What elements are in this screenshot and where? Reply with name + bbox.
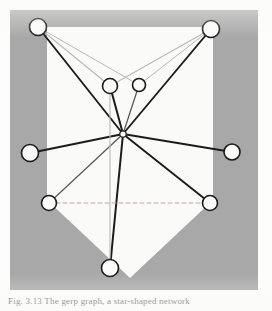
graph-node: top-left vertex [30, 19, 47, 36]
graph-node: bottom-left vertex [42, 196, 57, 211]
graph-node: central hub vertex [120, 131, 126, 137]
graph-node: top-right vertex [203, 21, 220, 38]
graph-node: upper-middle-left vertex [103, 79, 118, 94]
graph-node: bottom-right vertex [203, 196, 218, 211]
graph-node: left vertex [22, 145, 39, 162]
figure-container: top-left vertextop-right vertexupper-mid… [0, 0, 272, 311]
network-diagram: top-left vertextop-right vertexupper-mid… [0, 0, 272, 311]
graph-node: right vertex [224, 144, 240, 160]
figure-caption-text: Fig. 3.13 The gerp graph, a star-shaped … [8, 296, 268, 307]
graph-node: upper-middle-right vertex [133, 79, 146, 92]
graph-node: bottom vertex [102, 260, 119, 277]
figure-caption: Fig. 3.13 The gerp graph, a star-shaped … [8, 296, 268, 311]
